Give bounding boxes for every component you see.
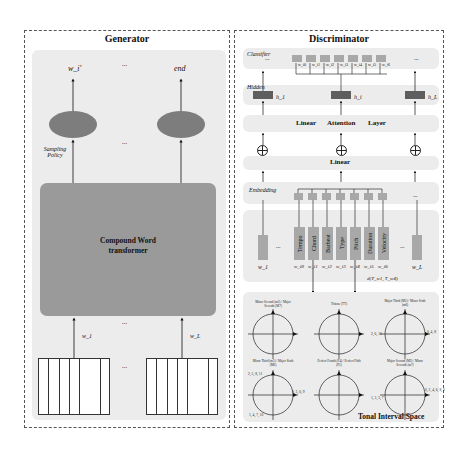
circle-4-point-topleft: 2, 5, 8, 11	[248, 372, 262, 376]
tonal-circles	[0, 0, 468, 451]
circle-2-top-label: Tritone (TT)	[316, 303, 362, 307]
circle-1-top-label: Minor Second (m2) / Major Seventh (M7)	[250, 301, 296, 308]
circle-6-point-left: 1, 3, 5, 7	[371, 396, 384, 400]
circle-4-point-right: 0, 3, 6, 9	[292, 390, 305, 394]
circle-3-point-left: 2, 6, 10	[371, 332, 382, 336]
circle-2-bottom-label: Perfect Fourth (P4) / Perfect Fifth (P5)	[316, 360, 362, 367]
circle-3-top-label: Major Third (M3) / Minor Sixth (m6)	[382, 300, 428, 307]
circle-3-bottom-label: Major Second (M2) / Minor Seventh (m7)	[382, 360, 428, 367]
tonal-space-title: Tonal Interval Space	[358, 412, 424, 421]
circle-4-point-bottomleft: 1, 4, 7, 10	[249, 413, 263, 417]
circle-6-point-right: 0, 2, 4, 6, 8, 10	[425, 388, 445, 392]
circle-3-point-right: 0, 4, 8	[427, 330, 436, 334]
circle-4-top-label: Minor Third (m3) / Major Sixth (M6)	[250, 360, 296, 367]
